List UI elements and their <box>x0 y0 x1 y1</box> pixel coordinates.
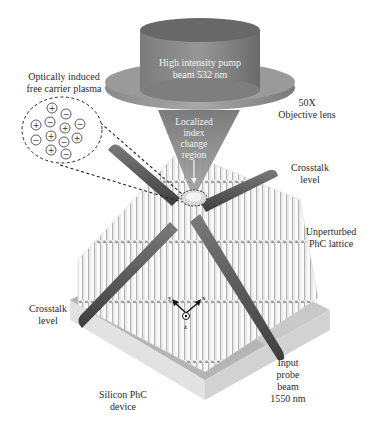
index-label-line2: index <box>164 128 224 139</box>
crosstalk-right-label: Crosstalk level <box>280 162 340 186</box>
silicon-device-label: Silicon PhC device <box>88 389 158 413</box>
device-label-line2: device <box>88 401 158 413</box>
objective-label-line2: Objective lens <box>262 109 352 121</box>
index-change-spot <box>181 190 207 206</box>
crosstalk-right-line2: level <box>280 174 340 186</box>
probe-label-line1: Input <box>258 357 318 369</box>
svg-text:−: − <box>33 136 40 145</box>
objective-lens-label: 50X Objective lens <box>262 97 352 121</box>
svg-text:−: − <box>63 150 70 159</box>
svg-text:−: − <box>63 110 70 119</box>
plasma-label-line1: Optically induced <box>14 71 114 83</box>
pump-beam-label: High intensity pump beam 532 nm <box>150 57 250 81</box>
plasma-label: Optically induced free carrier plasma <box>14 71 114 95</box>
svg-text:+: + <box>33 121 40 130</box>
plasma-label-line2: free carrier plasma <box>14 83 114 95</box>
crosstalk-left-line1: Crosstalk <box>18 303 78 315</box>
plasma-bubble: +− −+ +− −+ −+ +− <box>22 97 102 163</box>
pump-beam-label-line1: High intensity pump <box>150 57 250 69</box>
axis-y-label: y <box>168 294 172 302</box>
input-probe-label: Input probe beam 1550 nm <box>258 357 318 405</box>
phc-optical-switch-diagram: +− −+ +− −+ −+ +− y x z High intensity p… <box>0 0 373 443</box>
svg-text:−: − <box>77 120 84 129</box>
pump-beam-label-line2: beam 532 nm <box>150 69 250 81</box>
unperturbed-line1: Unperturbed <box>296 226 366 238</box>
svg-text:−: − <box>47 118 54 127</box>
crosstalk-left-line2: level <box>18 315 78 327</box>
crosstalk-left-label: Crosstalk level <box>18 303 78 327</box>
crosstalk-right-line1: Crosstalk <box>280 162 340 174</box>
objective-label-line1: 50X <box>262 97 352 109</box>
svg-text:+: + <box>74 134 81 143</box>
axis-x-label: x <box>202 294 206 302</box>
axis-z-label: z <box>184 323 187 331</box>
index-label-line4: region <box>164 150 224 161</box>
index-label-line3: change <box>164 139 224 150</box>
probe-label-line3: beam <box>258 381 318 393</box>
index-label-line1: Localized <box>164 117 224 128</box>
unperturbed-lattice-label: Unperturbed PhC lattice <box>296 226 366 250</box>
svg-text:+: + <box>49 104 56 113</box>
probe-label-line2: probe <box>258 369 318 381</box>
svg-text:+: + <box>62 124 69 133</box>
svg-text:+: + <box>48 132 55 141</box>
index-change-label: Localized index change region <box>164 117 224 161</box>
svg-text:−: − <box>61 138 68 147</box>
device-label-line1: Silicon PhC <box>88 389 158 401</box>
unperturbed-line2: PhC lattice <box>296 238 366 250</box>
svg-text:+: + <box>48 146 55 155</box>
probe-label-line4: 1550 nm <box>258 393 318 405</box>
